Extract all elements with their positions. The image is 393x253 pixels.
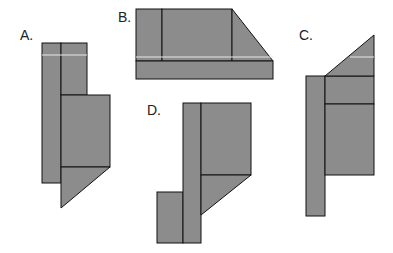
option-c-shape[interactable] bbox=[306, 35, 374, 216]
option-b-shape[interactable] bbox=[136, 9, 273, 79]
option-a-shape[interactable] bbox=[42, 43, 110, 208]
shapes-canvas bbox=[0, 0, 393, 253]
option-d-shape[interactable] bbox=[157, 103, 251, 243]
